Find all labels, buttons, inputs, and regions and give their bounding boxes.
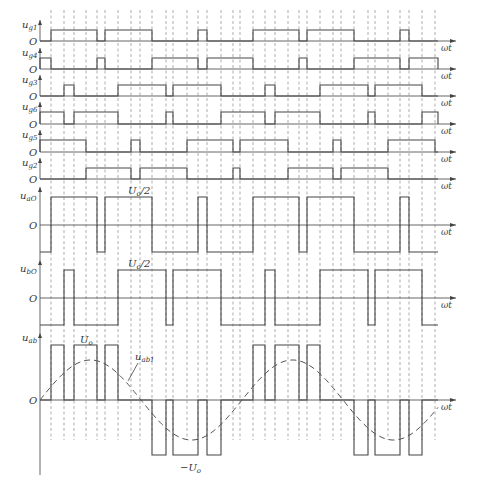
- arrow-up-icon: [38, 48, 42, 53]
- gate-signal-g4: ug4Oωt: [22, 47, 456, 81]
- gate-waveform: [40, 168, 438, 179]
- fundamental-label: uab1: [135, 351, 155, 364]
- omega-t-label: ωt: [441, 71, 452, 81]
- arrow-up-icon: [38, 158, 42, 163]
- origin-label: O: [29, 220, 37, 231]
- arrow-up-icon: [38, 187, 42, 192]
- origin-label: O: [29, 174, 37, 185]
- gate-waveform: [40, 58, 438, 69]
- omega-t-label: ωt: [441, 181, 452, 191]
- gate-signal-g1: ug1Oωt: [22, 19, 456, 53]
- origin-label: O: [29, 36, 37, 47]
- gate-signal-g5: ug5Oωt: [22, 129, 456, 164]
- line-voltage-group: uabOωtUo−Uouab1: [22, 332, 456, 475]
- signal-label: ubO: [20, 263, 37, 276]
- arrow-up-icon: [38, 20, 42, 25]
- origin-label: O: [29, 91, 37, 102]
- omega-t-label: ωt: [441, 402, 452, 412]
- phase-voltage-group: uaOOωtUo/2ubOOωtUo/2: [20, 185, 456, 333]
- level-label: Uo/2: [128, 258, 150, 271]
- gate-signal-g2: ug2Oωt: [22, 157, 456, 191]
- omega-t-label: ωt: [441, 154, 452, 164]
- phase-waveform: [40, 197, 438, 252]
- phase-voltage-bO: ubOOωtUo/2: [20, 258, 456, 333]
- signal-label: ug1: [22, 19, 37, 32]
- arrow-up-icon: [38, 130, 42, 135]
- origin-label: O: [29, 293, 37, 304]
- signal-label: ug4: [22, 47, 37, 60]
- omega-t-label: ωt: [441, 227, 452, 237]
- phase-waveform: [40, 270, 438, 325]
- arrow-up-icon: [38, 260, 42, 265]
- omega-t-label: ωt: [441, 98, 452, 108]
- omega-t-label: ωt: [441, 126, 452, 136]
- signal-label: ug3: [22, 74, 38, 87]
- signal-label: ug5: [22, 129, 38, 142]
- gate-signal-group: ug1Oωtug4Oωtug3Oωtug6Oωtug5Oωtug2Oωt: [22, 19, 456, 191]
- origin-label: O: [29, 64, 37, 75]
- signal-label: ug6: [22, 101, 38, 114]
- gate-signal-g6: ug6Oωt: [22, 101, 456, 136]
- signal-label: ug2: [22, 157, 38, 170]
- origin-label: O: [29, 147, 37, 158]
- arrow-up-icon: [38, 102, 42, 107]
- origin-label: O: [29, 395, 37, 406]
- gate-waveform: [40, 140, 438, 152]
- gate-signal-g3: ug3Oωt: [22, 74, 456, 108]
- pwm-inverter-waveform-diagram: ug1Oωtug4Oωtug3Oωtug6Oωtug5Oωtug2Oωt uaO…: [0, 0, 481, 488]
- signal-label: uaO: [20, 190, 37, 203]
- phase-voltage-aO: uaOOωtUo/2: [20, 185, 456, 260]
- level-label: Uo/2: [128, 185, 150, 198]
- origin-label: O: [29, 119, 37, 130]
- gate-waveform: [40, 112, 438, 124]
- arrow-up-icon: [38, 333, 42, 338]
- arrow-up-icon: [38, 75, 42, 80]
- signal-label: uab: [22, 332, 38, 345]
- fundamental-leader-line: [128, 363, 138, 381]
- gate-waveform: [40, 30, 438, 41]
- gate-waveform: [40, 85, 438, 96]
- omega-t-label: ωt: [441, 300, 452, 310]
- negative-level-label: −Uo: [180, 462, 201, 475]
- omega-t-label: ωt: [441, 43, 452, 53]
